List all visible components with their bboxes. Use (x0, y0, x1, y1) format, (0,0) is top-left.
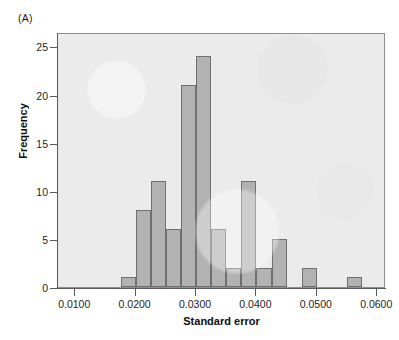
histogram-bar (256, 268, 271, 287)
y-axis-line (57, 33, 58, 288)
histogram-bar (121, 277, 136, 287)
y-tick-mark (50, 288, 57, 289)
x-tick-mark (376, 289, 377, 296)
histogram-bar (347, 277, 362, 287)
x-tick-label: 0.0100 (42, 298, 106, 310)
y-axis-title: Frequency (17, 81, 29, 181)
x-tick-label: 0.0300 (163, 298, 227, 310)
plot-area (57, 33, 385, 288)
x-tick-label: 0.0600 (344, 298, 399, 310)
x-tick-mark (316, 289, 317, 296)
y-tick-mark (50, 240, 57, 241)
histogram-bar (241, 181, 256, 287)
x-tick-mark (255, 289, 256, 296)
histogram-bar (272, 239, 287, 287)
x-tick-mark (195, 289, 196, 296)
y-tick-mark (50, 47, 57, 48)
y-tick-mark (50, 144, 57, 145)
x-tick-mark (135, 289, 136, 296)
y-tick-label: 0 (4, 282, 48, 294)
x-tick-mark (74, 289, 75, 296)
x-axis-line (57, 288, 386, 289)
y-tick-mark (50, 96, 57, 97)
y-tick-mark (50, 192, 57, 193)
histogram-bar (302, 268, 317, 287)
x-tick-label: 0.0500 (284, 298, 348, 310)
histogram-bar (151, 181, 166, 287)
histogram-bar (196, 56, 211, 287)
y-tick-label: 10 (4, 186, 48, 198)
histogram-bar (226, 268, 241, 287)
x-tick-label: 0.0200 (103, 298, 167, 310)
histogram-bar (136, 210, 151, 287)
y-tick-label: 5 (4, 234, 48, 246)
x-axis-title: Standard error (57, 315, 386, 327)
histogram-bar (211, 229, 226, 287)
y-tick-label: 25 (4, 41, 48, 53)
x-tick-label: 0.0400 (223, 298, 287, 310)
panel-label: (A) (18, 12, 33, 24)
histogram-bar (166, 229, 181, 287)
histogram-bar (181, 85, 196, 287)
histogram-figure: (A) 0510152025 0.01000.02000.03000.04000… (0, 0, 399, 340)
